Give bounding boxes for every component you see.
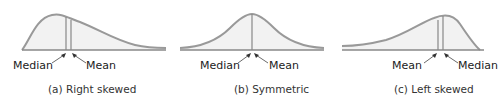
- caption-symmetric: (b) Symmetric: [234, 83, 309, 95]
- median-label: Median: [200, 60, 240, 72]
- mean-label: Mean: [392, 60, 422, 72]
- panel-right-skewed: Median Mean (a) Right skewed: [0, 0, 168, 102]
- mean-arrow: [74, 55, 86, 63]
- mean-label: Mean: [86, 60, 116, 72]
- mean-label: Mean: [269, 60, 299, 72]
- median-label: Median: [13, 60, 53, 72]
- panel-symmetric: Median Mean (b) Symmetric: [168, 0, 334, 102]
- caption-left-skewed: (c) Left skewed: [394, 83, 474, 95]
- panel-left-skewed: Mean Median (c) Left skewed: [334, 0, 501, 102]
- median-label: Median: [458, 60, 498, 72]
- caption-right-skewed: (a) Right skewed: [48, 83, 136, 95]
